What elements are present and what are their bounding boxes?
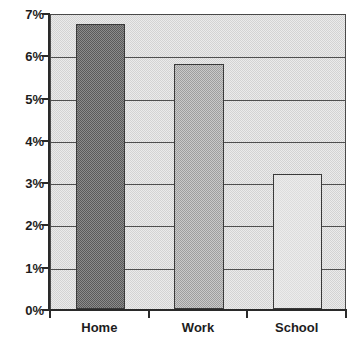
x-tick-mark: [148, 309, 150, 318]
y-axis-labels: 0%1%2%3%4%5%6%7%: [2, 8, 44, 310]
y-tick-mark: [42, 13, 50, 15]
y-tick-mark: [42, 267, 50, 269]
x-tick-label-work: Work: [182, 320, 214, 335]
bar-home: [76, 24, 125, 309]
x-tick-label-school: School: [275, 320, 318, 335]
y-tick-label: 2%: [2, 218, 44, 233]
y-tick-label: 4%: [2, 133, 44, 148]
y-tick-mark: [42, 55, 50, 57]
y-tick-label: 5%: [2, 91, 44, 106]
y-tick-label: 3%: [2, 176, 44, 191]
y-tick-mark: [42, 98, 50, 100]
y-tick-label: 7%: [2, 7, 44, 22]
bar-school: [273, 174, 322, 309]
y-tick-mark: [42, 182, 50, 184]
y-tick-label: 0%: [2, 303, 44, 318]
x-axis-line: [42, 309, 346, 311]
y-tick-label: 1%: [2, 260, 44, 275]
x-tick-label-home: Home: [81, 320, 117, 335]
plot-area: [50, 14, 346, 310]
x-tick-mark: [345, 309, 347, 318]
y-tick-mark: [42, 140, 50, 142]
y-tick-label: 6%: [2, 49, 44, 64]
bar-work: [174, 64, 223, 309]
chart-title-strip: [0, 0, 355, 6]
bar-chart-figure: 0%1%2%3%4%5%6%7% HomeWorkSchool: [0, 0, 355, 344]
x-tick-mark: [246, 309, 248, 318]
y-tick-mark: [42, 224, 50, 226]
x-axis-labels: HomeWorkSchool: [50, 320, 346, 342]
x-tick-mark: [49, 309, 51, 318]
